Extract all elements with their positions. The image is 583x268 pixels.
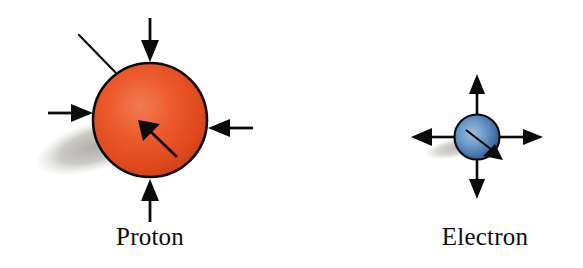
proton-force-arrow-bottom (141, 179, 159, 222)
proton-group (30, 18, 253, 222)
figure-canvas: Proton Electron (0, 0, 583, 268)
spin-axis-line (79, 35, 116, 73)
proton-force-arrow-left (48, 104, 93, 122)
electron-force-arrow-bottom (469, 158, 485, 199)
proton-label: Proton (60, 222, 240, 252)
electron-force-arrow-right (496, 129, 543, 145)
proton-sphere (93, 63, 207, 177)
electron-group (411, 74, 543, 199)
proton-force-arrow-top (141, 18, 159, 62)
electron-force-arrow-top (469, 74, 485, 116)
electron-label: Electron (395, 222, 575, 252)
proton-force-arrow-right (208, 119, 253, 137)
